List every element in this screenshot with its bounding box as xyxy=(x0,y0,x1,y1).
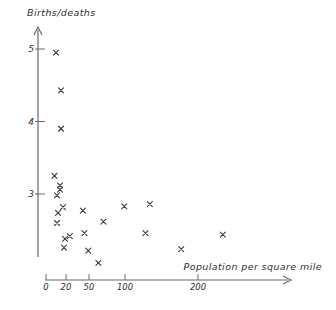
data-point-marker xyxy=(179,247,184,252)
data-point-marker xyxy=(55,221,60,226)
data-point-marker xyxy=(96,260,101,265)
axes xyxy=(34,27,291,284)
data-point-marker xyxy=(220,232,225,237)
data-point-marker xyxy=(61,205,66,210)
data-point-marker xyxy=(56,210,61,215)
data-point-marker xyxy=(55,193,60,198)
data-point-marker xyxy=(147,202,152,207)
y-tick-label: 5 xyxy=(28,44,34,54)
data-point-marker xyxy=(86,248,91,253)
x-tick-label: 100 xyxy=(117,282,133,292)
y-tick-label: 4 xyxy=(28,117,34,127)
data-point-marker xyxy=(143,231,148,236)
data-point-marker xyxy=(52,173,57,178)
data-points xyxy=(52,50,225,265)
data-point-marker xyxy=(82,231,87,236)
data-point-marker xyxy=(58,183,63,188)
scatter-chart: Births/deaths Population per square mile… xyxy=(0,0,336,310)
data-point-marker xyxy=(54,50,59,55)
x-tick-label: 0 xyxy=(43,282,48,292)
data-point-marker xyxy=(59,88,64,93)
x-tick-label: 200 xyxy=(190,282,206,292)
tick-marks xyxy=(35,49,198,280)
data-point-marker xyxy=(67,234,72,239)
y-tick-label: 3 xyxy=(28,189,34,199)
data-point-marker xyxy=(59,126,64,131)
data-point-marker xyxy=(62,245,67,250)
data-point-marker xyxy=(101,219,106,224)
data-point-marker xyxy=(63,236,68,241)
data-point-marker xyxy=(80,208,85,213)
plot-area xyxy=(0,0,336,310)
x-tick-label: 50 xyxy=(84,282,95,292)
x-tick-label: 20 xyxy=(61,282,72,292)
data-point-marker xyxy=(122,204,127,209)
data-point-marker xyxy=(58,187,63,192)
